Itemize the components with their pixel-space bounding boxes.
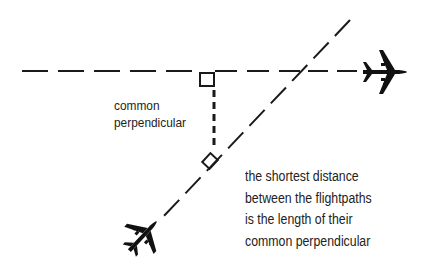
airplane-icon-lower bbox=[115, 208, 172, 265]
label-line: common bbox=[114, 97, 186, 114]
note-line: common perpendicular bbox=[245, 231, 372, 253]
note-line: is the length of their bbox=[245, 209, 372, 231]
flightpaths-diagram: common perpendicular the shortest distan… bbox=[0, 0, 427, 266]
label-line: perpendicular bbox=[114, 114, 186, 131]
note-line: the shortest distance bbox=[245, 166, 372, 188]
airplane-icon-right bbox=[363, 50, 407, 94]
shortest-distance-note: the shortest distance between the flight… bbox=[245, 166, 372, 252]
note-line: between the flightpaths bbox=[245, 188, 372, 210]
right-angle-mark-top bbox=[200, 73, 214, 86]
common-perpendicular-label: common perpendicular bbox=[114, 97, 186, 131]
